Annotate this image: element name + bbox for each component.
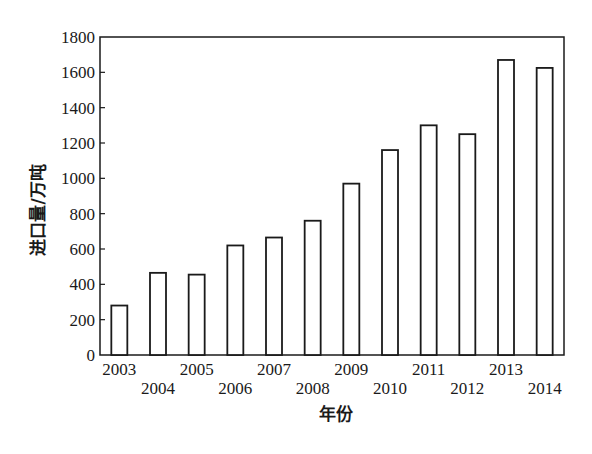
x-tick-label: 2003 bbox=[102, 360, 136, 379]
x-tick-label: 2007 bbox=[257, 360, 292, 379]
x-tick-label: 2009 bbox=[334, 360, 368, 379]
y-tick-label: 400 bbox=[70, 275, 96, 294]
x-tick-label: 2014 bbox=[528, 379, 563, 398]
bar-2006 bbox=[227, 245, 243, 355]
bar-2010 bbox=[382, 150, 398, 355]
y-tick-label: 600 bbox=[70, 240, 96, 259]
x-tick-label: 2004 bbox=[141, 379, 176, 398]
y-tick-label: 1200 bbox=[61, 134, 95, 153]
x-tick-label: 2012 bbox=[450, 379, 484, 398]
x-tick-label: 2005 bbox=[180, 360, 214, 379]
bar-2005 bbox=[189, 275, 205, 355]
y-tick-label: 0 bbox=[87, 346, 96, 365]
x-tick-label: 2010 bbox=[373, 379, 407, 398]
y-tick-label: 1000 bbox=[61, 169, 95, 188]
bar-2014 bbox=[537, 68, 553, 355]
x-tick-label: 2008 bbox=[296, 379, 330, 398]
y-tick-label: 1400 bbox=[61, 99, 95, 118]
x-axis-tick-labels: 2003200420052006200720082009201020112012… bbox=[102, 360, 562, 398]
x-tick-label: 2013 bbox=[489, 360, 523, 379]
y-axis-tick-labels: 020040060080010001200140016001800 bbox=[61, 28, 95, 365]
bar-2008 bbox=[305, 221, 321, 355]
y-tick-label: 200 bbox=[70, 311, 96, 330]
x-axis-title: 年份 bbox=[319, 404, 354, 424]
bars bbox=[111, 60, 552, 355]
bar-2011 bbox=[421, 125, 437, 355]
x-tick-label: 2011 bbox=[412, 360, 445, 379]
y-tick-label: 1800 bbox=[61, 28, 95, 47]
x-tick-label: 2006 bbox=[218, 379, 252, 398]
plot-frame bbox=[100, 37, 564, 355]
y-tick-label: 800 bbox=[70, 205, 96, 224]
y-tick-label: 1600 bbox=[61, 63, 95, 82]
bar-2013 bbox=[498, 60, 514, 355]
bar-2003 bbox=[111, 306, 127, 355]
bar-2004 bbox=[150, 273, 166, 355]
bar-2012 bbox=[459, 134, 475, 355]
bar-2007 bbox=[266, 238, 282, 355]
bar-chart: 020040060080010001200140016001800 200320… bbox=[0, 0, 592, 454]
y-axis-title: 进口量/万吨 bbox=[28, 164, 48, 255]
bar-2009 bbox=[343, 184, 359, 355]
